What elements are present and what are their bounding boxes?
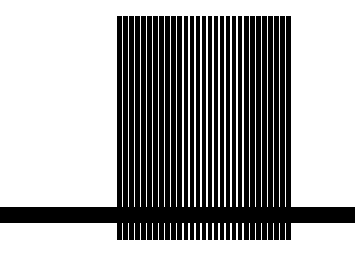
horizontal-bar xyxy=(0,207,355,223)
